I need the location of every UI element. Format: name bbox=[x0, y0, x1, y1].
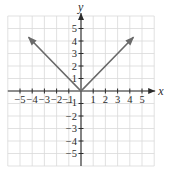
x-tick-label: −3 bbox=[39, 94, 50, 105]
absolute-value-graph: −5−4−3−2−112345−5−4−3−2−112345 x y bbox=[0, 0, 174, 170]
x-axis-label: x bbox=[157, 84, 164, 98]
x-tick-label: −4 bbox=[27, 94, 39, 105]
x-tick-label: 2 bbox=[103, 94, 108, 105]
x-tick-label: 5 bbox=[139, 94, 144, 105]
y-tick-label: 3 bbox=[72, 48, 77, 59]
x-tick-label: 1 bbox=[91, 94, 96, 105]
x-tick-label: 4 bbox=[127, 94, 133, 105]
x-tick-label: 3 bbox=[115, 94, 120, 105]
x-tick-label: −2 bbox=[51, 94, 62, 105]
y-tick-label: 2 bbox=[72, 61, 77, 72]
y-tick-label: −1 bbox=[66, 97, 77, 108]
y-axis-label: y bbox=[77, 0, 84, 14]
y-tick-label: −4 bbox=[66, 136, 78, 147]
x-tick-label: −5 bbox=[14, 94, 25, 105]
y-tick-label: 4 bbox=[72, 36, 78, 47]
y-tick-label: 5 bbox=[72, 23, 77, 34]
y-tick-label: −2 bbox=[66, 111, 77, 122]
y-tick-label: −3 bbox=[66, 123, 77, 134]
y-tick-label: −5 bbox=[66, 148, 77, 159]
